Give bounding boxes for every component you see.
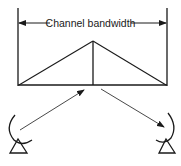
spectrum-right-slope	[93, 41, 166, 85]
left-dish-antenna-icon	[9, 115, 32, 153]
channel-bandwidth-diagram: Channel bandwidth	[0, 0, 181, 166]
spectrum-left-slope	[19, 41, 93, 85]
right-dish-antenna-icon	[156, 113, 175, 153]
downlink-arrow	[101, 89, 164, 127]
channel-bandwidth-label: Channel bandwidth	[46, 17, 136, 29]
uplink-arrow	[20, 90, 84, 130]
